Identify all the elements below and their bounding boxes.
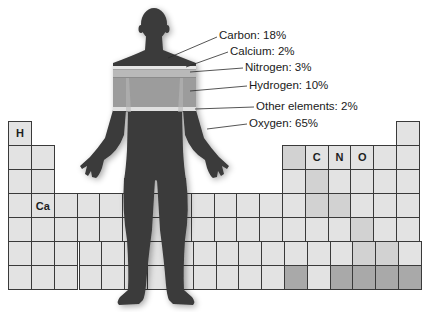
nitrogen-band	[100, 70, 210, 78]
callout-calcium: Calcium: 2%	[230, 45, 295, 58]
callout-nitrogen: Nitrogen: 3%	[245, 61, 311, 74]
calcium-band	[100, 66, 210, 70]
callout-oxygen: Oxygen: 65%	[249, 117, 318, 130]
other-elements-band	[100, 107, 210, 111]
callout-carbon: Carbon: 18%	[219, 29, 286, 42]
callout-other-elements: Other elements: 2%	[256, 100, 358, 113]
hydrogen-band	[100, 78, 210, 108]
callout-hydrogen: Hydrogen: 10%	[249, 79, 328, 92]
